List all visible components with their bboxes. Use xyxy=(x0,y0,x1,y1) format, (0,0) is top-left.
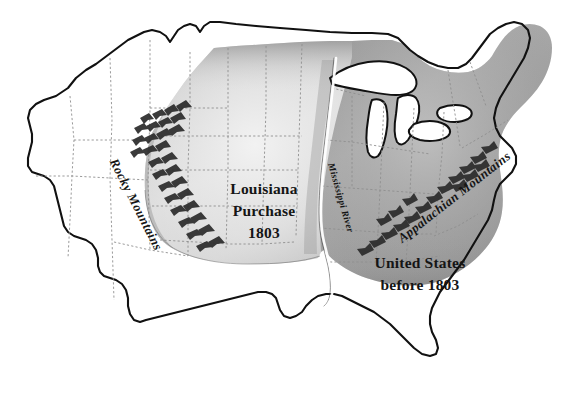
united-states-line1: United States xyxy=(375,254,466,271)
louisiana-purchase-line2: Purchase xyxy=(233,202,295,219)
united-states-line2: before 1803 xyxy=(381,276,460,293)
map-canvas: Louisiana Purchase 1803 United States be… xyxy=(0,0,585,398)
louisiana-purchase-map: Louisiana Purchase 1803 United States be… xyxy=(0,0,585,398)
louisiana-purchase-line3: 1803 xyxy=(248,224,280,241)
lake-erie xyxy=(409,121,450,141)
louisiana-purchase-line1: Louisiana xyxy=(230,180,297,197)
lake-ontario xyxy=(437,105,472,122)
